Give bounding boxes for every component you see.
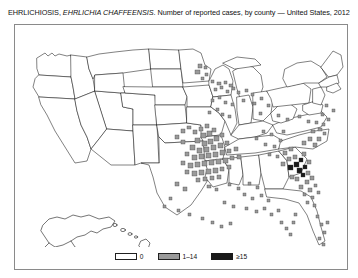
county-marker (255, 137, 258, 140)
county-marker (307, 120, 310, 123)
county-marker (317, 137, 321, 141)
county-marker (230, 156, 234, 160)
county-marker (307, 160, 311, 164)
county-marker (198, 64, 202, 68)
county-marker (332, 109, 335, 112)
county-marker (202, 161, 207, 166)
county-marker (302, 141, 306, 145)
county-marker (256, 186, 259, 189)
county-marker (195, 138, 200, 143)
county-marker (283, 151, 287, 155)
county-marker (327, 118, 330, 121)
county-marker (323, 231, 326, 234)
legend-label: ≥15 (236, 253, 247, 260)
county-marker (207, 131, 212, 136)
title-species-italic: EHRLICHIA CHAFFEENSIS (63, 8, 154, 17)
county-marker (220, 225, 223, 228)
county-marker (295, 177, 299, 181)
county-marker (299, 185, 303, 189)
county-marker (253, 102, 256, 105)
county-marker (267, 104, 270, 107)
county-marker (232, 87, 235, 90)
county-marker (202, 141, 207, 146)
county-marker (181, 161, 185, 165)
county-marker (242, 99, 245, 102)
county-marker (289, 147, 293, 151)
county-marker (206, 153, 211, 158)
county-marker (326, 221, 329, 224)
county-marker (199, 127, 203, 131)
legend-swatch (115, 253, 137, 260)
county-marker (207, 185, 211, 188)
county-marker (318, 237, 321, 240)
county-marker (228, 115, 231, 118)
county-marker (316, 215, 319, 218)
county-marker (243, 193, 246, 196)
county-marker (308, 188, 312, 192)
county-marker (308, 137, 312, 141)
county-marker (251, 93, 254, 96)
us-county-choropleth-map (15, 25, 347, 247)
legend-swatch (211, 253, 233, 260)
county-marker (264, 143, 267, 146)
county-marker (205, 73, 208, 76)
figure-container: EHRLICHIOSIS, EHRLICHIA CHAFFEENSIS. Num… (0, 0, 358, 278)
county-marker (311, 130, 315, 133)
county-marker (192, 171, 197, 176)
county-marker (216, 108, 219, 111)
county-marker (299, 158, 303, 162)
county-marker (195, 162, 200, 167)
county-marker (183, 187, 187, 191)
county-marker (281, 162, 285, 166)
legend-entry: 1–14 (158, 253, 198, 260)
county-marker (225, 141, 229, 145)
legend-swatch (158, 253, 180, 260)
county-marker (227, 165, 231, 169)
county-marker (213, 168, 218, 173)
county-marker (315, 121, 318, 124)
county-marker (270, 133, 273, 136)
county-marker (175, 182, 179, 186)
county-marker (169, 197, 172, 200)
alaska-inset (33, 215, 115, 247)
county-marker (292, 221, 295, 224)
county-marker (196, 178, 200, 182)
county-marker (287, 157, 291, 161)
county-marker (245, 89, 248, 92)
county-marker (181, 140, 185, 144)
figure-title: EHRLICHIOSIS, EHRLICHIA CHAFFEENSIS. Num… (8, 6, 352, 21)
county-marker (306, 201, 309, 204)
county-marker (298, 115, 301, 118)
county-marker (204, 66, 207, 69)
county-marker (211, 145, 216, 150)
county-marker (302, 152, 306, 156)
county-marker (303, 193, 306, 196)
county-marker (286, 118, 289, 121)
county-marker (208, 139, 213, 144)
county-marker (215, 188, 218, 191)
county-marker (325, 104, 328, 107)
county-marker (321, 113, 324, 116)
county-marker (260, 97, 263, 100)
county-marker (248, 182, 251, 185)
county-marker (282, 130, 285, 133)
county-marker (188, 213, 191, 216)
county-marker (206, 169, 211, 174)
county-marker (228, 183, 231, 186)
county-marker (199, 154, 204, 159)
county-marker (211, 221, 214, 224)
county-marker (177, 209, 180, 212)
county-marker (195, 70, 200, 74)
county-marker (220, 133, 224, 137)
county-marker (208, 111, 211, 114)
county-marker (237, 91, 240, 94)
county-marker (305, 180, 309, 184)
county-marker (201, 217, 204, 220)
title-suffix: . Number of reported cases, by county — … (154, 8, 350, 17)
county-marker (277, 209, 280, 212)
county-marker (303, 165, 307, 169)
county-marker (294, 213, 297, 216)
county-marker (237, 187, 240, 190)
county-marker (193, 130, 197, 134)
county-marker (185, 170, 189, 174)
